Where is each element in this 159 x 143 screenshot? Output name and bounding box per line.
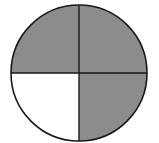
- quarter-top-left: [11, 5, 79, 73]
- quarter-bottom-right: [79, 73, 147, 141]
- quarter-bottom-left: [11, 73, 79, 141]
- quarter-top-right: [79, 5, 147, 73]
- fraction-circle-diagram: [0, 0, 159, 143]
